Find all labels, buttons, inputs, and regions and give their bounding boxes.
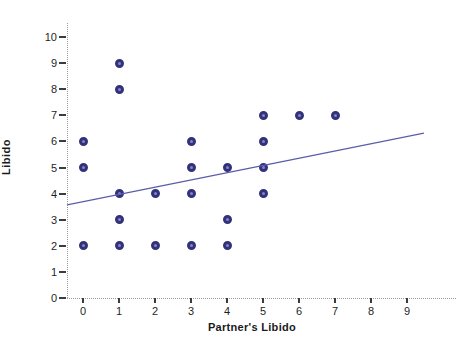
x-axis-tick-label: 8 <box>359 305 383 317</box>
x-axis-tick-label: 3 <box>179 305 203 317</box>
y-axis-tick-label: 4 <box>31 188 57 200</box>
y-axis-tick <box>59 114 66 116</box>
data-point <box>223 241 232 250</box>
x-axis-tick <box>118 298 120 303</box>
data-point <box>79 241 88 250</box>
y-axis-tick-label: 10 <box>31 31 57 43</box>
data-point <box>151 241 160 250</box>
y-axis-tick-label: 2 <box>31 240 57 252</box>
data-point <box>115 85 124 94</box>
y-axis-tick <box>59 140 66 142</box>
y-axis-tick-label: 5 <box>31 162 57 174</box>
y-axis-tick <box>59 62 66 64</box>
y-axis-tick <box>59 219 66 221</box>
x-axis-tick-label: 7 <box>323 305 347 317</box>
x-axis-tick <box>298 298 300 303</box>
data-point <box>259 163 268 172</box>
data-point <box>259 137 268 146</box>
y-axis-tick <box>59 88 66 90</box>
data-point <box>223 215 232 224</box>
x-axis-tick-label: 1 <box>107 305 131 317</box>
x-axis-tick-label: 5 <box>251 305 275 317</box>
x-axis-tick <box>334 298 336 303</box>
y-axis-tick <box>59 245 66 247</box>
data-point <box>259 111 268 120</box>
data-point <box>295 111 304 120</box>
x-axis-tick-label: 4 <box>215 305 239 317</box>
y-axis-tick <box>59 36 66 38</box>
x-axis-tick-label: 0 <box>71 305 95 317</box>
x-axis-tick <box>190 298 192 303</box>
data-point <box>115 189 124 198</box>
x-axis-tick <box>82 298 84 303</box>
data-point <box>259 189 268 198</box>
data-point <box>331 111 340 120</box>
y-axis-tick-label: 0 <box>31 292 57 304</box>
y-axis-tick-label: 1 <box>31 266 57 278</box>
x-axis-tick <box>262 298 264 303</box>
y-axis-tick <box>59 297 66 299</box>
data-point <box>187 241 196 250</box>
y-axis-title: Libido <box>0 112 12 202</box>
data-point <box>151 189 160 198</box>
data-point <box>187 189 196 198</box>
data-point <box>79 137 88 146</box>
data-point <box>115 241 124 250</box>
x-axis-tick-label: 6 <box>287 305 311 317</box>
y-axis-tick-label: 6 <box>31 135 57 147</box>
x-axis-tick <box>370 298 372 303</box>
x-axis-tick-label: 9 <box>395 305 419 317</box>
scatter-plot-figure: Libido Partner's Libido 0123456789100123… <box>0 0 462 359</box>
x-axis-title: Partner's Libido <box>152 321 352 333</box>
data-point <box>115 215 124 224</box>
data-point <box>223 163 232 172</box>
y-axis-tick-label: 9 <box>31 57 57 69</box>
y-axis-tick <box>59 271 66 273</box>
data-point <box>79 163 88 172</box>
data-point <box>115 59 124 68</box>
y-axis-tick-label: 8 <box>31 83 57 95</box>
x-axis-tick <box>406 298 408 303</box>
data-point <box>187 137 196 146</box>
x-axis-tick <box>154 298 156 303</box>
y-axis-tick <box>59 167 66 169</box>
y-axis-tick <box>59 193 66 195</box>
y-axis-tick-label: 3 <box>31 214 57 226</box>
data-point <box>187 163 196 172</box>
y-axis-tick-label: 7 <box>31 109 57 121</box>
x-axis-tick <box>226 298 228 303</box>
y-axis-line <box>67 23 68 298</box>
x-axis-tick-label: 2 <box>143 305 167 317</box>
